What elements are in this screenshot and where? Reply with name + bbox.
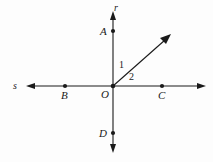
point-label-O: O <box>101 89 109 100</box>
line-s-arrowhead-left <box>26 83 35 89</box>
line-label-s: s <box>13 81 17 91</box>
point-O-dot <box>111 84 116 89</box>
point-label-A: A <box>100 26 107 37</box>
line-s-arrowhead-right <box>197 83 206 89</box>
point-D-dot <box>111 131 115 135</box>
point-B-dot <box>63 84 67 88</box>
point-label-B: B <box>61 90 68 101</box>
geometry-figure: A B O C D r s 1 2 <box>0 0 213 162</box>
line-r-arrowhead-down <box>110 144 116 153</box>
angle-label-1: 1 <box>119 60 124 70</box>
point-C-dot <box>160 84 164 88</box>
line-label-r: r <box>114 3 118 13</box>
point-A-dot <box>111 29 115 33</box>
angle-label-2: 2 <box>129 72 134 82</box>
point-label-D: D <box>99 128 107 139</box>
point-label-C: C <box>158 90 165 101</box>
